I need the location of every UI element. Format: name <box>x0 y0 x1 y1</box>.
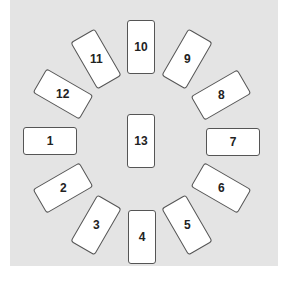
card-number: 8 <box>218 88 225 102</box>
card-number: 5 <box>184 218 191 232</box>
card-13: 13 <box>127 114 155 168</box>
card-number: 6 <box>218 181 225 195</box>
card-number: 10 <box>134 40 147 54</box>
card-1: 1 <box>23 127 77 155</box>
card-number: 4 <box>139 230 146 244</box>
card-number: 12 <box>56 87 69 101</box>
card-number: 11 <box>90 52 103 66</box>
card-number: 9 <box>184 52 191 66</box>
card-7: 7 <box>206 128 260 156</box>
card-number: 1 <box>47 134 54 148</box>
card-number: 3 <box>93 218 100 232</box>
card-number: 2 <box>60 181 67 195</box>
card-10: 10 <box>127 20 155 74</box>
card-number: 7 <box>230 135 237 149</box>
card-number: 13 <box>134 134 147 148</box>
card-4: 4 <box>128 210 156 264</box>
